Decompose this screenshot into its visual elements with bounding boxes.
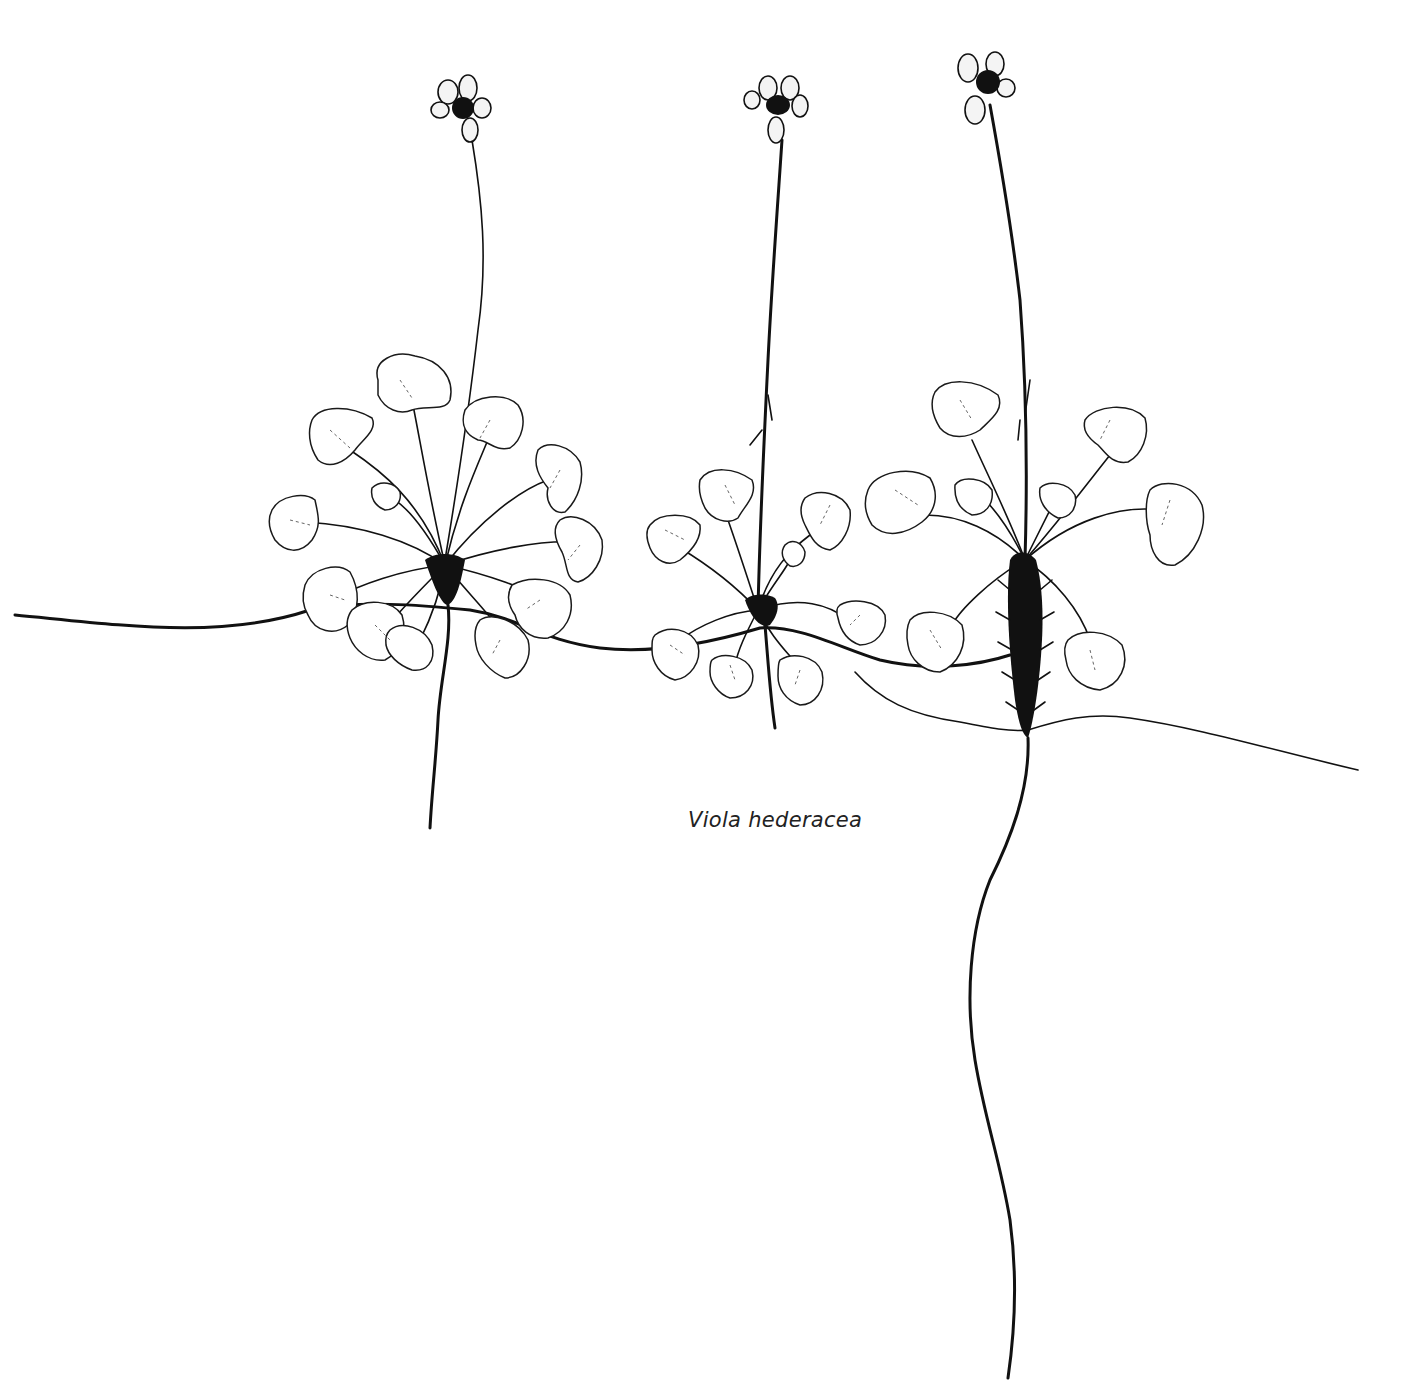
species-caption: Viola hederacea	[688, 808, 862, 832]
flower-3	[958, 52, 1015, 124]
plant-left	[269, 75, 602, 828]
flower-1	[431, 75, 491, 142]
plant-middle	[647, 76, 885, 728]
botanical-illustration	[0, 0, 1402, 1389]
rosette-1	[269, 354, 602, 678]
stolons	[15, 604, 1358, 770]
plant-right	[865, 52, 1203, 1378]
flower-2	[744, 76, 808, 143]
